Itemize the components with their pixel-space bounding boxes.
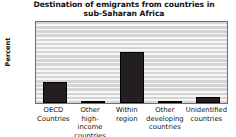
chart-title-line-1: Destination of emigrants from countries … bbox=[33, 0, 214, 9]
bar-slot bbox=[74, 22, 112, 103]
y-axis-tick-mark bbox=[35, 103, 36, 104]
x-axis-tick-label-line: Countries bbox=[36, 115, 71, 124]
bar-slot bbox=[112, 22, 150, 103]
y-axis-tick-mark bbox=[35, 22, 36, 23]
x-axis-tick-label: Unidentifiedcountries bbox=[185, 106, 228, 137]
bar-chart: Destination of emigrants from countries … bbox=[0, 0, 236, 137]
bar bbox=[158, 101, 182, 103]
x-axis-tick-label: Otherdevelopingcountries bbox=[145, 106, 185, 137]
bar bbox=[43, 82, 67, 103]
bar-series bbox=[36, 22, 227, 103]
x-axis-tick-label-line: countries bbox=[186, 115, 227, 124]
chart-title-line-2: sub-Saharan Africa bbox=[18, 9, 230, 18]
x-axis-tick-label: OECDCountries bbox=[35, 106, 72, 137]
x-axis-tick-label-line: Other bbox=[146, 106, 184, 115]
bar bbox=[196, 97, 220, 103]
y-axis-tick-mark bbox=[35, 54, 36, 55]
x-axis-tick-label-line: region bbox=[109, 115, 144, 124]
y-axis-tick-mark bbox=[35, 86, 36, 87]
chart-title: Destination of emigrants from countries … bbox=[18, 0, 230, 18]
y-axis-tick-mark bbox=[35, 38, 36, 39]
bar-slot bbox=[151, 22, 189, 103]
bar bbox=[120, 52, 144, 103]
bar-slot bbox=[189, 22, 227, 103]
x-axis-tick-label-line: Within bbox=[109, 106, 144, 115]
bar-slot bbox=[36, 22, 74, 103]
x-axis-tick-label-line: OECD bbox=[36, 106, 71, 115]
x-axis-tick-label-line: Other bbox=[73, 106, 108, 115]
y-axis-tick-mark bbox=[35, 70, 36, 71]
y-axis-tick-label: 0 bbox=[35, 99, 36, 104]
x-axis-labels: OECDCountriesOtherhigh-incomecountriesWi… bbox=[35, 106, 228, 137]
y-axis-label: Percent bbox=[4, 32, 12, 72]
plot-area: 020406080100 bbox=[35, 21, 228, 104]
bar bbox=[81, 101, 105, 103]
x-axis-tick-label-line: Unidentified bbox=[186, 106, 227, 115]
x-axis-tick-label-line: high-income bbox=[73, 115, 108, 132]
x-axis-tick-label-line: countries bbox=[73, 132, 108, 137]
x-axis-tick-label: Withinregion bbox=[108, 106, 145, 137]
x-axis-tick-label-line: developing bbox=[146, 115, 184, 124]
x-axis-tick-label-line: countries bbox=[146, 123, 184, 132]
x-axis-tick-label: Otherhigh-incomecountries bbox=[72, 106, 109, 137]
